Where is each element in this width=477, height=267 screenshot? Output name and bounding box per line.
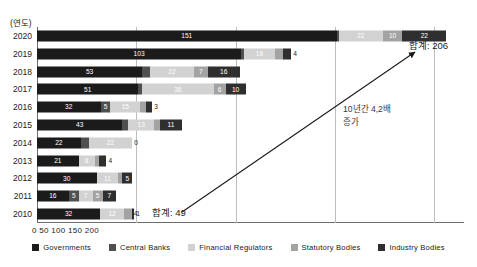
stacked-bar-2019[interactable]: 10311644 [37, 48, 291, 59]
bar-segment[interactable]: 21 [37, 155, 79, 166]
legend-label: Statutory Bodies [302, 243, 361, 252]
bar-segment[interactable]: 3 [146, 102, 152, 113]
y-axis-label-2020: 2020 [13, 31, 32, 41]
legend-swatch-icon [188, 244, 195, 251]
bar-segment[interactable]: 16 [37, 191, 69, 202]
bar-segment-value: 16 [256, 50, 263, 57]
stacked-bar-2016[interactable]: 3251533 [37, 102, 152, 113]
legend-label: Governments [43, 243, 91, 252]
bar-segment[interactable]: 51 [37, 84, 138, 95]
bar-segment[interactable]: 10 [226, 84, 246, 95]
y-axis-label-2015: 2015 [13, 120, 32, 130]
bar-segment[interactable]: 8 [79, 155, 95, 166]
legend-swatch-icon [291, 244, 298, 251]
bar-segment[interactable]: 12 [100, 209, 124, 220]
bar-segment-value: 22 [107, 140, 114, 147]
bar-segment[interactable]: 11 [160, 119, 182, 130]
bar-segment-value: 51 [84, 86, 91, 93]
bar-segment[interactable]: 4 [142, 66, 150, 77]
stacked-bar-2010[interactable]: 321241 [37, 209, 134, 220]
bar-segment[interactable]: 16 [208, 66, 240, 77]
bar-segment[interactable]: 16 [244, 48, 276, 59]
bar-segment[interactable]: 22 [150, 66, 194, 77]
bar-segment[interactable]: 22 [89, 137, 133, 148]
bar-segment-value: 6 [218, 86, 222, 93]
bar-segment[interactable]: 4 [283, 48, 291, 59]
y-axis-label-2012: 2012 [13, 173, 32, 183]
stacked-bar-2018[interactable]: 53422716 [37, 66, 240, 77]
bar-segment-value: 7 [108, 193, 112, 200]
y-axis-label-2017: 2017 [13, 84, 32, 94]
legend-item-financial-regulators[interactable]: Financial Regulators [188, 243, 272, 252]
bar-segment[interactable]: 32 [37, 102, 101, 113]
bar-segment[interactable]: 36 [142, 84, 213, 95]
y-axis-label-2019: 2019 [13, 49, 32, 59]
bar-segment[interactable]: 7 [194, 66, 208, 77]
bar-segment[interactable]: 4 [275, 48, 283, 59]
bar-segment-value: 22 [357, 33, 364, 40]
bar-segment-value: 22 [55, 140, 62, 147]
plot-area: 2020151122102220191031164420185342271620… [37, 27, 464, 223]
stacked-bar-2020[interactable]: 1511221022 [37, 30, 446, 41]
bar-segment[interactable]: 43 [37, 119, 122, 130]
bar-segment[interactable]: 4 [124, 209, 132, 220]
bar-segment[interactable]: 151 [37, 30, 337, 41]
bar-segment-value: 30 [63, 175, 70, 182]
y-axis-label-2013: 2013 [13, 156, 32, 166]
bar-segment[interactable]: 5 [122, 173, 132, 184]
legend-item-industry-bodies[interactable]: Industry Bodies [378, 243, 444, 252]
bar-segment[interactable]: 22 [37, 137, 81, 148]
bar-segment[interactable]: 15 [110, 102, 140, 113]
bar-row: 2010321241 [37, 205, 464, 223]
bar-segment[interactable]: 5 [69, 191, 79, 202]
bar-segment[interactable]: 4 [99, 155, 107, 166]
bar-segment[interactable]: 103 [37, 48, 241, 59]
stacked-bar-2012[interactable]: 301125 [37, 173, 132, 184]
bar-segment[interactable]: 1 [132, 209, 135, 220]
bar-segment-value: 7 [199, 68, 203, 75]
bar-segment-value: 5 [96, 193, 100, 200]
bar-segment[interactable]: 13 [128, 119, 154, 130]
bar-segment-value: 21 [54, 157, 61, 164]
bar-row: 20163251533 [37, 98, 464, 116]
bar-segment-value: 16 [220, 68, 227, 75]
legend-item-statutory-bodies[interactable]: Statutory Bodies [291, 243, 361, 252]
legend-item-central-banks[interactable]: Central Banks [109, 243, 170, 252]
bar-segment-value: 12 [108, 211, 115, 218]
bar-segment-value: 13 [138, 122, 145, 129]
bar-segment[interactable]: 53 [37, 66, 142, 77]
bar-segment-value: 32 [65, 104, 72, 111]
bar-segment-value: 151 [181, 33, 192, 40]
bar-segment[interactable]: 5 [93, 191, 103, 202]
y-axis-label-2011: 2011 [14, 191, 32, 201]
bar-segment[interactable]: 4 [81, 137, 89, 148]
bar-row: 201910311644 [37, 45, 464, 63]
stacked-bar-2013[interactable]: 21824 [37, 155, 107, 166]
bar-segment[interactable]: 5 [101, 102, 111, 113]
bar-segment[interactable]: 7 [103, 191, 117, 202]
bar-segment-value: 11 [168, 122, 175, 129]
stacked-bar-2011[interactable]: 165757 [37, 191, 116, 202]
annotation-total-2020: 합계: 206 [409, 38, 448, 52]
bar-segment-value: 10 [389, 33, 396, 40]
stacked-bar-2017[interactable]: 51236610 [37, 84, 246, 95]
legend-swatch-icon [378, 244, 385, 251]
bar-segment[interactable]: 30 [37, 173, 97, 184]
bar-row: 201543313311 [37, 116, 464, 134]
bar-segment-value: 7 [84, 193, 88, 200]
bar-segment[interactable]: 6 [214, 84, 226, 95]
bar-segment[interactable]: 10 [383, 30, 403, 41]
bar-segment[interactable]: 22 [339, 30, 383, 41]
legend-label: Central Banks [120, 243, 170, 252]
bar-segment-value: 11 [104, 175, 111, 182]
stacked-bar-2014[interactable]: 224220 [37, 137, 132, 148]
bar-segment-value: 8 [85, 157, 89, 164]
stacked-bar-chart: (연도) 20201511221022201910311644201853422… [0, 0, 477, 267]
bar-segment[interactable]: 11 [97, 173, 119, 184]
bar-segment[interactable]: 32 [37, 209, 100, 220]
legend-item-governments[interactable]: Governments [32, 243, 91, 252]
bar-segment[interactable]: 7 [79, 191, 93, 202]
bar-segment-value: 53 [86, 68, 93, 75]
stacked-bar-2015[interactable]: 43313311 [37, 119, 182, 130]
legend-swatch-icon [109, 244, 116, 251]
